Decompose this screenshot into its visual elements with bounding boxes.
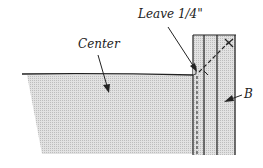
leave-quarter-inch-label: Leave 1/4": [138, 8, 203, 20]
border-strips: [193, 35, 236, 155]
diagram: Leave 1/4" Center B: [0, 0, 263, 168]
b-label: B: [244, 88, 253, 100]
center-label: Center: [78, 38, 120, 50]
diagram-canvas: [0, 0, 263, 168]
